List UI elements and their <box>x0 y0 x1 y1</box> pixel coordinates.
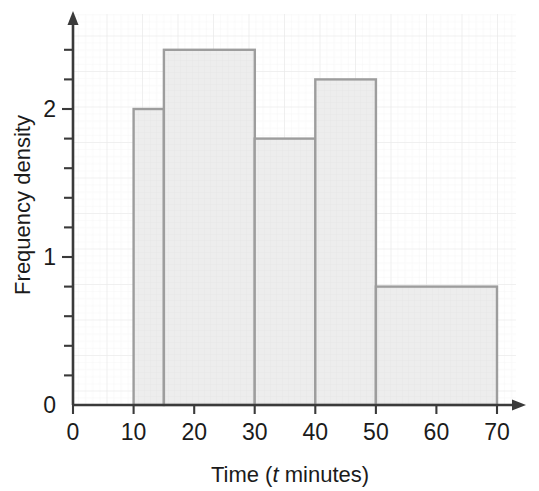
x-tick-label-20: 20 <box>181 419 207 445</box>
y-axis-title: Frequency density <box>10 115 35 295</box>
x-axis-title: Time (t minutes) <box>211 462 369 487</box>
bar-15-30 <box>164 50 255 405</box>
y-tick-label-0: 0 <box>43 392 56 418</box>
x-tick-label-40: 40 <box>303 419 329 445</box>
frequency-density-histogram: 0 1 2 0 10 20 30 40 50 60 70 Time (t min… <box>0 0 539 491</box>
histogram-figure: 0 1 2 0 10 20 30 40 50 60 70 Time (t min… <box>0 0 539 491</box>
bar-30-40 <box>255 139 316 405</box>
x-tick-label-0: 0 <box>67 419 80 445</box>
x-tick-label-10: 10 <box>121 419 147 445</box>
x-tick-labels: 0 10 20 30 40 50 60 70 <box>67 419 510 445</box>
x-tick-label-70: 70 <box>484 419 510 445</box>
x-tick-label-30: 30 <box>242 419 268 445</box>
y-axis-ticks <box>62 50 73 376</box>
x-tick-label-50: 50 <box>363 419 389 445</box>
x-axis-title-after: minutes) <box>279 462 369 487</box>
y-tick-labels: 0 1 2 <box>43 96 56 418</box>
y-tick-label-1: 1 <box>43 244 56 270</box>
y-tick-label-2: 2 <box>43 96 56 122</box>
x-axis-title-before: Time ( <box>211 462 273 487</box>
x-tick-label-60: 60 <box>424 419 450 445</box>
x-axis-ticks <box>73 405 497 414</box>
bar-50-70 <box>376 287 497 405</box>
bar-40-50 <box>315 79 376 405</box>
bar-10-15 <box>134 109 164 405</box>
